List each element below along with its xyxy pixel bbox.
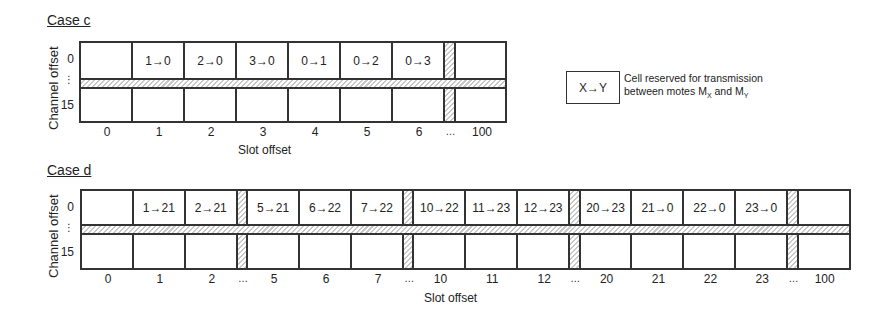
case-c-schedule-grid: 1→02→03→00→10→20→3 <box>79 41 507 123</box>
case-d-cell-ch15-slot-23 <box>736 235 788 268</box>
case-d-cell-ch15-slot-21 <box>633 235 685 268</box>
case-d-cell-ch0-slot-12: 12→23 <box>518 191 570 224</box>
case-c-x-axis-title: Slot offset <box>238 143 291 157</box>
legend-line-2: between motes MX and MY <box>624 85 763 102</box>
case-d-slot-tick: 20 <box>581 272 633 286</box>
case-c-slot-tick: 3 <box>237 125 289 139</box>
case-d-cell-ch0-slot-5: 5→21 <box>248 191 300 224</box>
case-c-cell-ch0-slot-3: 3→0 <box>237 43 289 78</box>
case-d-x-axis-title: Slot offset <box>424 291 477 305</box>
legend-description: Cell reserved for transmission between m… <box>624 72 763 102</box>
case-d-slot-tick: 100 <box>799 272 851 286</box>
case-d-slot-tick: … <box>570 273 581 284</box>
case-d-channel-0-label: 0 <box>54 200 74 214</box>
case-c-cell-ch0-slot-4: 0→1 <box>289 43 341 78</box>
case-c-cell-ch15-slot-4 <box>289 89 341 121</box>
case-d-channel-range-band <box>82 224 849 235</box>
case-c-channel-dots-label: ⋮ <box>54 74 74 85</box>
case-d-cell-ch15-slot-5 <box>248 235 300 268</box>
case-d-slot-tick: 23 <box>736 272 788 286</box>
case-c-cell-ch0-slot-1: 1→0 <box>133 43 185 78</box>
case-d-cell-ch15-slot-100 <box>799 235 855 268</box>
case-d-cell-ch0-slot-20: 20→23 <box>581 191 633 224</box>
case-d-title: Case d <box>47 162 91 178</box>
case-d-slot-tick: 21 <box>633 272 685 286</box>
case-c-cell-ch15-slot-1 <box>133 89 185 121</box>
case-d-cell-ch15-slot-1 <box>134 235 186 268</box>
case-d-cell-ch15-slot-12 <box>518 235 570 268</box>
case-c-cell-ch15-slot-6 <box>393 89 445 121</box>
case-c-slot-tick: 0 <box>81 125 133 139</box>
case-c-slot-tick: … <box>445 126 456 137</box>
legend-symbol: X→Y <box>579 81 607 95</box>
case-c-cell-ch0-slot-0 <box>81 43 133 78</box>
case-c-slot-tick: 2 <box>185 125 237 139</box>
case-c-cell-ch15-slot-0 <box>81 89 133 121</box>
case-d-slot-tick: 7 <box>352 272 404 286</box>
case-c-cell-ch15-slot-100 <box>456 89 512 121</box>
case-c-slot-tick: 6 <box>393 125 445 139</box>
legend-symbol-box: X→Y <box>566 71 620 104</box>
case-d-slot-tick: 0 <box>82 272 134 286</box>
case-c-cell-ch0-slot-100 <box>456 43 512 78</box>
case-d-cell-ch0-slot-100 <box>799 191 855 224</box>
case-d-slot-tick: 11 <box>466 272 518 286</box>
case-d-slot-tick: 10 <box>414 272 466 286</box>
case-d-channel-15-label: 15 <box>54 245 74 259</box>
case-d-slot-tick: 1 <box>134 272 186 286</box>
case-d-cell-ch0-slot-2: 2→21 <box>186 191 238 224</box>
case-c-slot-tick: 1 <box>133 125 185 139</box>
case-d-cell-ch0-slot-6: 6→22 <box>300 191 352 224</box>
case-d-cell-ch15-slot-10 <box>414 235 466 268</box>
case-d-slot-tick: … <box>238 273 249 284</box>
case-d-cell-ch0-slot-7: 7→22 <box>352 191 404 224</box>
case-d-slot-tick: … <box>788 273 799 284</box>
case-d-slot-tick: 6 <box>300 272 352 286</box>
case-c-cell-ch15-slot-2 <box>185 89 237 121</box>
case-c-channel-0-label: 0 <box>54 52 74 66</box>
case-c-cell-ch0-slot-5: 0→2 <box>341 43 393 78</box>
case-d-cell-ch0-slot-10: 10→22 <box>414 191 466 224</box>
case-c-channel-15-label: 15 <box>54 98 74 112</box>
case-d-cell-ch0-slot-21: 21→0 <box>633 191 685 224</box>
case-d-cell-ch15-slot-0 <box>82 235 134 268</box>
case-d-schedule-grid: 1→212→215→216→227→2210→2211→2312→2320→23… <box>80 189 851 270</box>
case-d-slot-tick: 5 <box>248 272 300 286</box>
case-d-cell-ch15-slot-2 <box>186 235 238 268</box>
case-c-cell-ch15-slot-5 <box>341 89 393 121</box>
case-c-cell-ch15-slot-3 <box>237 89 289 121</box>
case-c-slot-tick: 5 <box>341 125 393 139</box>
case-d-slot-tick: 12 <box>518 272 570 286</box>
case-c-slot-tick: 4 <box>289 125 341 139</box>
case-d-slot-tick: … <box>404 273 415 284</box>
case-d-slot-tick: 2 <box>186 272 238 286</box>
case-c-title: Case c <box>47 12 91 28</box>
legend-line-1: Cell reserved for transmission <box>624 72 763 85</box>
case-d-cell-ch0-slot-0 <box>82 191 134 224</box>
case-d-slot-tick: 22 <box>684 272 736 286</box>
case-d-cell-ch0-slot-23: 23→0 <box>736 191 788 224</box>
case-d-cell-ch15-slot-6 <box>300 235 352 268</box>
case-d-cell-ch15-slot-11 <box>466 235 518 268</box>
case-d-cell-ch15-slot-7 <box>352 235 404 268</box>
case-d-channel-dots-label: ⋮ <box>54 222 74 233</box>
case-c-channel-range-band <box>81 78 505 89</box>
case-d-cell-ch15-slot-22 <box>684 235 736 268</box>
case-c-slot-tick: 100 <box>456 125 508 139</box>
case-c-cell-ch0-slot-6: 0→3 <box>393 43 445 78</box>
case-c-cell-ch0-slot-2: 2→0 <box>185 43 237 78</box>
case-d-cell-ch0-slot-11: 11→23 <box>466 191 518 224</box>
case-d-cell-ch0-slot-22: 22→0 <box>684 191 736 224</box>
case-d-cell-ch0-slot-1: 1→21 <box>134 191 186 224</box>
case-d-cell-ch15-slot-20 <box>581 235 633 268</box>
